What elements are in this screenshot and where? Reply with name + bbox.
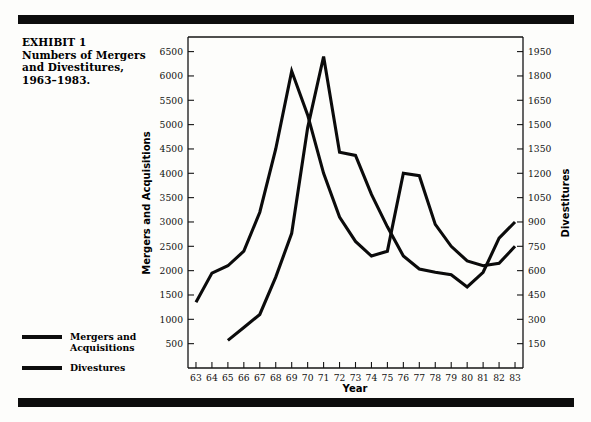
right-axis-title: Divestitures <box>560 169 571 238</box>
right-tick-label: 600 <box>528 265 546 276</box>
right-tick-label: 1950 <box>528 46 552 57</box>
left-tick-label: 6000 <box>160 70 184 81</box>
x-tick-label: 75 <box>382 372 394 383</box>
x-tick-label: 69 <box>286 372 298 383</box>
right-tick-label: 450 <box>528 289 546 300</box>
left-tick-label: 3500 <box>160 192 184 203</box>
x-tick-label: 82 <box>493 372 505 383</box>
left-tick-label: 2000 <box>160 265 184 276</box>
x-tick-label: 77 <box>413 372 425 383</box>
x-tick-label: 70 <box>302 372 314 383</box>
right-tick-label: 1050 <box>528 192 552 203</box>
series-line-divestures <box>228 56 515 340</box>
x-tick-label: 81 <box>477 372 489 383</box>
x-tick-label: 64 <box>206 372 218 383</box>
left-axis-title: Mergers and Acquisitions <box>141 131 152 274</box>
line-chart: 5001000150020002500300035004000450050005… <box>0 0 591 422</box>
x-tick-label: 80 <box>461 372 473 383</box>
x-tick-label: 74 <box>366 372 378 383</box>
x-tick-label: 63 <box>190 372 202 383</box>
left-tick-label: 4000 <box>160 168 184 179</box>
x-tick-label: 73 <box>350 372 362 383</box>
x-tick-label: 67 <box>254 372 266 383</box>
x-tick-label: 76 <box>398 372 410 383</box>
series-line-mergers-and-acquisitions <box>196 71 515 302</box>
x-tick-label: 65 <box>222 372 234 383</box>
series-group <box>196 56 515 340</box>
chart-plot-area: 5001000150020002500300035004000450050005… <box>0 0 591 422</box>
left-tick-label: 4500 <box>160 143 184 154</box>
left-tick-label: 5500 <box>160 95 184 106</box>
x-tick-label: 83 <box>509 372 521 383</box>
right-tick-label: 1650 <box>528 95 552 106</box>
left-tick-label: 5000 <box>160 119 184 130</box>
left-tick-label: 1500 <box>160 289 184 300</box>
right-axis-ticks: 1503004506007509001050120013501500165018… <box>517 46 552 349</box>
left-tick-label: 3000 <box>160 216 184 227</box>
right-tick-label: 150 <box>528 338 546 349</box>
right-tick-label: 1800 <box>528 70 552 81</box>
left-tick-label: 1000 <box>160 314 184 325</box>
right-tick-label: 1500 <box>528 119 552 130</box>
x-tick-label: 66 <box>238 372 250 383</box>
right-tick-label: 300 <box>528 314 546 325</box>
x-axis-ticks: 6364656667686970717273747576777879808182… <box>190 362 521 383</box>
x-axis-title: Year <box>342 383 368 394</box>
x-tick-label: 72 <box>334 372 346 383</box>
left-tick-label: 2500 <box>160 241 184 252</box>
x-tick-label: 79 <box>445 372 457 383</box>
right-tick-label: 1200 <box>528 168 552 179</box>
right-tick-label: 750 <box>528 241 546 252</box>
left-axis-ticks: 5001000150020002500300035004000450050005… <box>160 46 194 349</box>
x-tick-label: 71 <box>318 372 330 383</box>
left-tick-label: 6500 <box>160 46 184 57</box>
x-tick-label: 78 <box>429 372 441 383</box>
right-tick-label: 1350 <box>528 143 552 154</box>
x-tick-label: 68 <box>270 372 282 383</box>
right-tick-label: 900 <box>528 216 546 227</box>
exhibit-figure: EXHIBIT 1 Numbers of Mergers and Divesti… <box>0 0 591 422</box>
axes-group <box>188 37 523 368</box>
left-tick-label: 500 <box>165 338 183 349</box>
